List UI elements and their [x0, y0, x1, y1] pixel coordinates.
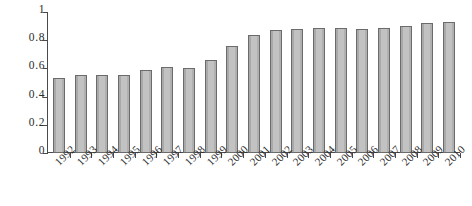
bar-1992[interactable]: [53, 78, 65, 153]
y-axis-tick-label: 0.4: [29, 89, 45, 101]
bar-2008[interactable]: [400, 26, 412, 153]
bar-slot: [178, 12, 200, 153]
bar-2002[interactable]: [270, 30, 282, 153]
bar-2001[interactable]: [248, 35, 260, 153]
bar-slot: [373, 12, 395, 153]
bar-1998[interactable]: [183, 68, 195, 153]
bar-slot: [265, 12, 287, 153]
bar-slot: [438, 12, 460, 153]
bar-slot: [352, 12, 374, 153]
bar-slot: [395, 12, 417, 153]
bar-1999[interactable]: [205, 60, 217, 153]
bar-1993[interactable]: [75, 75, 87, 153]
bar-slot: [308, 12, 330, 153]
bar-2000[interactable]: [226, 46, 238, 153]
y-axis-tick-label: 1: [39, 4, 45, 16]
bar-slot: [243, 12, 265, 153]
y-axis-tick-label: 0.6: [29, 60, 45, 72]
y-axis-tick-label: 0.8: [29, 32, 45, 44]
y-axis-tick-label: 0: [39, 145, 45, 157]
bar-2007[interactable]: [378, 28, 390, 153]
bar-slot: [156, 12, 178, 153]
y-axis-tick-label: 0.2: [29, 117, 45, 129]
bar-2010[interactable]: [443, 22, 455, 153]
bar-1997[interactable]: [161, 67, 173, 153]
bar-slot: [135, 12, 157, 153]
bar-chart: 00.20.40.60.81 1992199319941995199619971…: [0, 0, 472, 206]
plot-area: [48, 12, 460, 153]
bar-slot: [417, 12, 439, 153]
bar-slot: [70, 12, 92, 153]
bar-1995[interactable]: [118, 75, 130, 153]
bar-1996[interactable]: [140, 70, 152, 153]
bar-slot: [330, 12, 352, 153]
bar-2009[interactable]: [421, 23, 433, 153]
bar-2004[interactable]: [313, 28, 325, 153]
bar-slot: [113, 12, 135, 153]
bar-2003[interactable]: [291, 29, 303, 153]
bar-1994[interactable]: [96, 75, 108, 153]
bar-2005[interactable]: [335, 28, 347, 153]
bar-slot: [221, 12, 243, 153]
bar-slot: [91, 12, 113, 153]
bar-2006[interactable]: [356, 29, 368, 153]
bar-slot: [200, 12, 222, 153]
bar-slot: [287, 12, 309, 153]
y-axis-tick-mark: [43, 153, 48, 154]
bar-slot: [48, 12, 70, 153]
